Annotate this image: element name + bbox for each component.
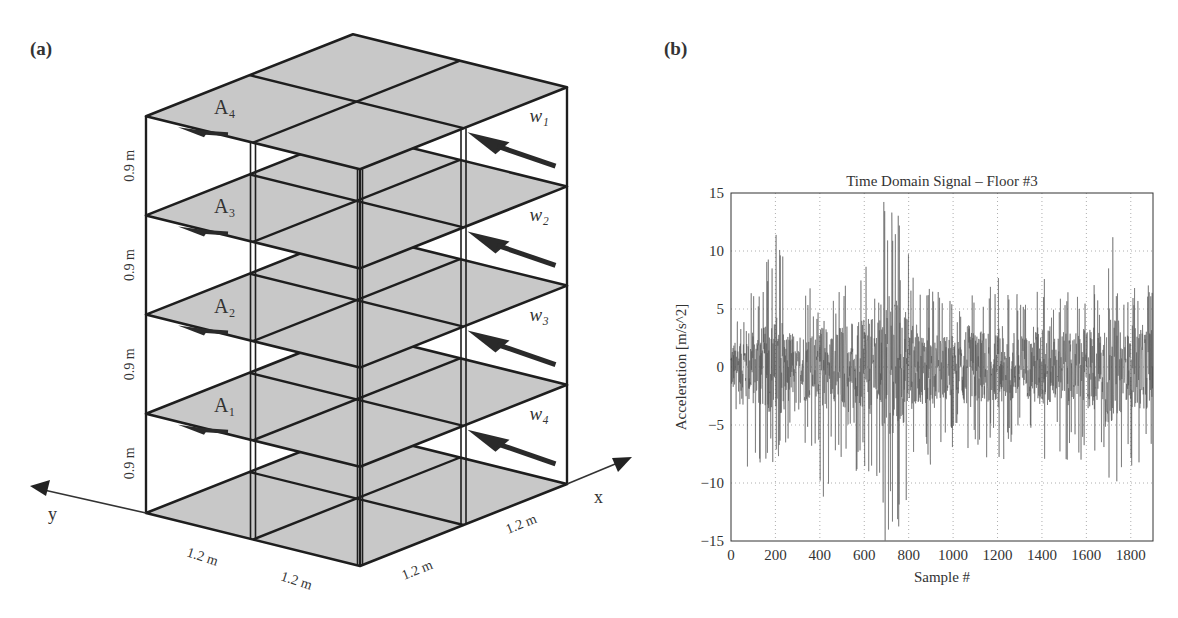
x-axis-line [567,462,620,484]
x-tick-label: 1800 [1116,547,1146,563]
floor-arrow-shaft [198,231,228,233]
floor-arrow-shaft [198,132,228,134]
x-tick-label: 1000 [938,547,968,563]
x-tick-label: 600 [853,547,876,563]
story-height-label: 0.9 m [122,447,137,479]
floor-label: A₂ [214,295,235,317]
wind-force-arrow-icon [468,331,510,353]
force-label: w₄ [530,403,549,424]
x-tick-label: 1200 [983,547,1013,563]
y-axis-label: Acceleration [m/s^2] [673,304,689,431]
bay-width-label-y: 1.2 m [185,545,220,569]
plot-frame [731,193,1153,541]
story-height-label: 0.9 m [122,348,137,380]
force-label: w₁ [530,105,549,126]
y-axis-label: y [48,504,57,524]
signal-path [731,202,1153,540]
force-label: w₃ [530,304,549,325]
four-story-frame-diagram: A₄w₁0.9 mA₃w₂0.9 mA₂w₃0.9 mA₁w₄0.9 myx1.… [0,0,660,618]
y-tick-label: 0 [717,359,725,375]
wind-force-arrow-icon [468,132,510,154]
floor-label: A₁ [214,394,235,416]
floor-label: A₃ [214,195,235,217]
wind-force-arrow-shaft [498,146,556,166]
wind-force-arrow-icon [468,430,510,452]
bay-width-label-y: 1.2 m [279,569,314,593]
y-tick-label: 5 [717,301,725,317]
chart-grid [731,193,1153,541]
bay-width-label-x: 1.2 m [400,557,435,583]
y-tick-label: 15 [709,185,724,201]
x-axis-arrow-icon [612,457,632,472]
axis-ticks: 020040060080010001200140016001800−15−10−… [701,185,1146,563]
x-tick-label: 1400 [1027,547,1057,563]
y-tick-label: −15 [701,533,724,549]
x-tick-label: 200 [764,547,787,563]
signal-trace [731,202,1153,540]
story-height-label: 0.9 m [122,150,137,182]
floor-arrow-shaft [198,331,228,333]
x-tick-label: 1600 [1071,547,1101,563]
x-tick-label: 800 [897,547,920,563]
bay-width-label-x: 1.2 m [504,511,539,537]
x-tick-label: 400 [809,547,832,563]
y-axis-arrow-icon [30,480,50,496]
x-tick-label: 0 [727,547,735,563]
y-tick-label: −5 [708,417,724,433]
y-axis-line [44,490,146,513]
panel-label-b: (b) [664,38,687,60]
chart-title: Time Domain Signal – Floor #3 [846,173,1038,189]
floor-arrow-shaft [198,430,228,432]
story-height-label: 0.9 m [122,249,137,281]
wind-force-arrow-shaft [498,345,556,365]
x-axis-label: Sample # [914,569,971,585]
wind-force-arrow-shaft [498,245,556,265]
wind-force-arrow-icon [468,231,510,253]
wind-force-arrow-shaft [498,444,556,464]
x-axis-label: x [594,487,603,507]
y-tick-label: 10 [709,243,724,259]
floor-slabs [146,34,567,566]
floor-label: A₄ [214,96,235,118]
force-label: w₂ [530,204,550,225]
y-tick-label: −10 [701,475,724,491]
